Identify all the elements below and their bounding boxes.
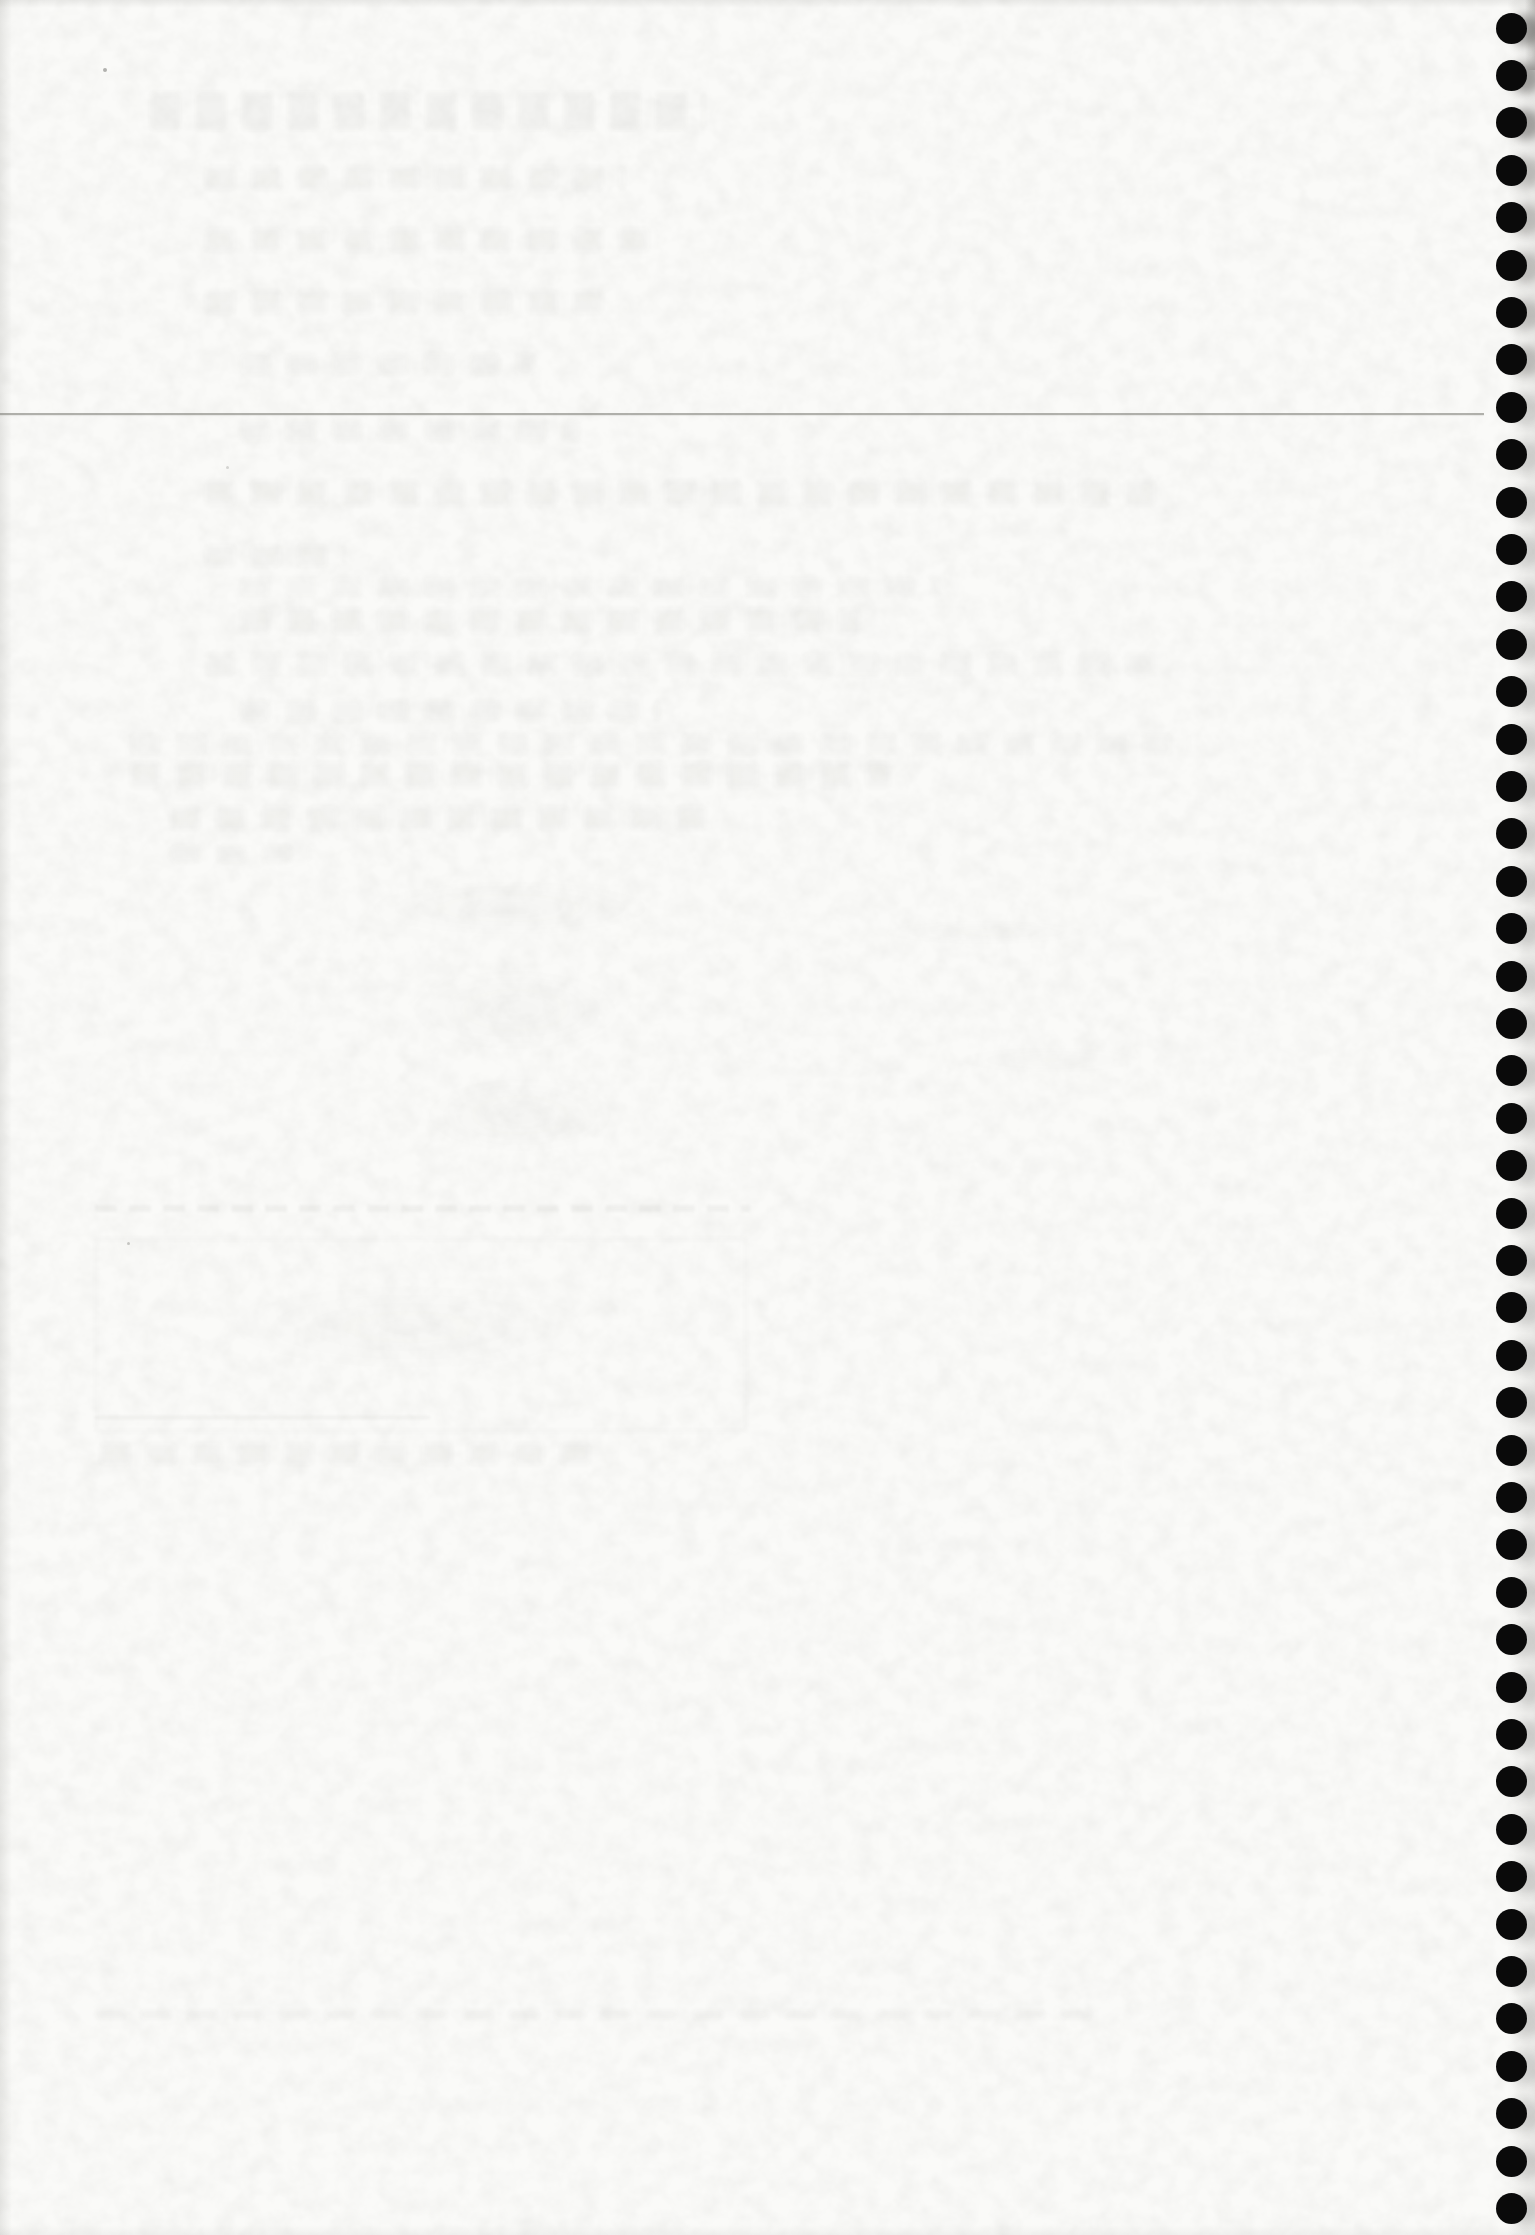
binding-hole	[1496, 676, 1527, 707]
binding-hole	[1496, 1624, 1527, 1655]
dirt-speck	[226, 466, 229, 469]
binding-hole	[1496, 961, 1527, 992]
binding-hole	[1496, 1766, 1527, 1797]
binding-hole	[1496, 2098, 1527, 2129]
dirt-speck	[127, 1242, 130, 1245]
binding-hole	[1496, 1672, 1527, 1703]
binding-hole	[1496, 13, 1527, 44]
binding-hole	[1496, 107, 1527, 138]
binding-hole	[1496, 629, 1527, 660]
bleed-through-mark	[170, 845, 310, 863]
page-edge-shadow-bottom	[0, 2225, 1535, 2235]
binding-hole	[1496, 1198, 1527, 1229]
bleed-through-mark	[130, 1262, 690, 1392]
binding-hole	[1496, 913, 1527, 944]
binding-hole	[1496, 1814, 1527, 1845]
binding-hole	[1496, 202, 1527, 233]
binding-hole	[1496, 60, 1527, 91]
binding-hole	[1496, 1008, 1527, 1039]
binding-hole	[1496, 1387, 1527, 1418]
bleed-through-mark	[205, 166, 625, 190]
binding-hole	[1496, 344, 1527, 375]
binding-hole	[1496, 534, 1527, 565]
page-corner-shadow-top-right	[1525, 0, 1535, 70]
binding-hole	[1496, 724, 1527, 755]
binding-hole	[1496, 1529, 1527, 1560]
bleed-through-mark	[240, 608, 860, 634]
bleed-through-mark	[95, 2010, 1100, 2019]
binding-hole	[1496, 1435, 1527, 1466]
bleed-through-mark	[300, 868, 720, 948]
bleed-through-mark	[820, 915, 1150, 950]
bleed-through-mark	[95, 1205, 750, 1212]
bleed-through-mark	[130, 733, 1190, 755]
binding-hole	[1496, 1577, 1527, 1608]
binding-hole	[1496, 487, 1527, 518]
bleed-through-mark	[205, 545, 345, 567]
binding-hole	[1496, 866, 1527, 897]
binding-hole	[1496, 2146, 1527, 2177]
bleed-through-mark	[380, 1060, 660, 1170]
scanned-page	[0, 0, 1535, 2235]
bleed-through-mark	[95, 1416, 430, 1419]
binding-hole	[1496, 297, 1527, 328]
binding-hole	[1496, 1150, 1527, 1181]
dirt-speck	[103, 68, 107, 72]
binding-hole	[1496, 392, 1527, 423]
bleed-through-mark	[240, 353, 535, 375]
bleed-through-mark	[150, 92, 705, 130]
binding-hole	[1496, 1909, 1527, 1940]
bleed-through-mark	[900, 1040, 1200, 1080]
binding-hole	[1496, 1245, 1527, 1276]
binding-hole	[1496, 1292, 1527, 1323]
binding-hole	[1496, 250, 1527, 281]
bleed-through-mark	[205, 480, 1155, 506]
binding-hole	[1496, 1482, 1527, 1513]
binding-hole	[1496, 439, 1527, 470]
page-edge-shadow-top	[0, 0, 1535, 8]
bleed-through-mark	[240, 420, 580, 442]
binding-hole	[1496, 1861, 1527, 1892]
bleed-through-mark	[240, 577, 940, 597]
bleed-through-mark	[100, 1443, 600, 1465]
bleed-through-mark	[170, 806, 710, 830]
binding-hole	[1496, 1103, 1527, 1134]
binding-hole	[1496, 771, 1527, 802]
page-edge-shadow-left	[0, 0, 12, 2235]
bleed-through-mark	[205, 652, 1165, 676]
bleed-through-mark	[95, 1238, 747, 1432]
bleed-through-mark	[205, 228, 660, 252]
bleed-through-mark	[240, 700, 660, 722]
bleed-through-mark	[130, 762, 890, 788]
binding-hole	[1496, 1956, 1527, 1987]
paper-texture-overlay	[0, 0, 1535, 2235]
binding-hole	[1496, 1055, 1527, 1086]
binding-hole	[1496, 1719, 1527, 1750]
bleed-through-mark	[360, 950, 670, 1070]
binding-hole	[1496, 2003, 1527, 2034]
binding-hole	[1496, 581, 1527, 612]
binding-hole	[1496, 818, 1527, 849]
binding-hole	[1496, 2051, 1527, 2082]
binding-hole	[1496, 1340, 1527, 1371]
horizontal-pencil-line	[0, 413, 1484, 415]
binding-hole	[1496, 155, 1527, 186]
binding-hole	[1496, 2193, 1527, 2224]
bleed-through-mark	[205, 290, 615, 314]
